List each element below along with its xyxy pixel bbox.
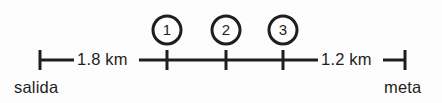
marker-label-1: 1 — [154, 22, 180, 37]
marker-label-2: 2 — [213, 22, 239, 37]
start-label: salida — [14, 79, 58, 96]
finish-label: meta — [384, 79, 421, 96]
route-diagram: 1 2 3 1.8 km 1.2 km salida meta — [0, 0, 442, 103]
marker-label-3: 3 — [270, 22, 296, 37]
distance-label-right: 1.2 km — [321, 51, 372, 68]
distance-label-left: 1.8 km — [77, 51, 128, 68]
route-line-graphics — [0, 0, 442, 103]
